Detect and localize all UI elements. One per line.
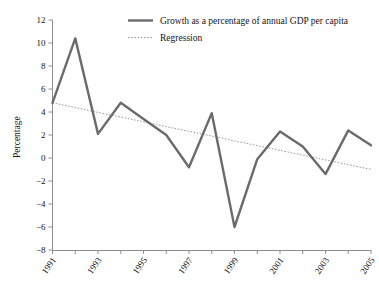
y-tick-label: 2 (41, 130, 46, 140)
x-tick-label: 1991 (40, 255, 59, 275)
y-tick-label: −4 (36, 199, 46, 209)
x-axis-labels: 19911993199519971999200120032005 (40, 255, 377, 276)
legend-label-growth: Growth as a percentage of annual GDP per… (160, 16, 349, 26)
x-tick-label: 2003 (313, 255, 332, 276)
y-axis-ticks: 121086420−2−4−6−8 (36, 15, 53, 255)
line-chart: Percentage 121086420−2−4−6−8 19911993199… (0, 0, 379, 294)
y-tick-label: −2 (36, 176, 46, 186)
y-tick-label: −8 (36, 245, 46, 255)
chart-container: Percentage 121086420−2−4−6−8 19911993199… (0, 0, 379, 294)
legend-label-regression: Regression (160, 33, 202, 43)
y-tick-label: 0 (41, 153, 46, 163)
y-axis-title: Percentage (12, 116, 22, 158)
y-tick-label: −6 (36, 222, 46, 232)
x-tick-label: 2005 (358, 255, 377, 276)
y-tick-label: 4 (41, 107, 46, 117)
y-tick-label: 8 (41, 61, 46, 71)
y-tick-label: 6 (41, 84, 46, 94)
x-tick-label: 1993 (85, 255, 104, 276)
x-tick-label: 1995 (131, 255, 150, 276)
x-tick-label: 1997 (176, 255, 195, 276)
y-tick-label: 10 (37, 38, 47, 48)
chart-legend: Growth as a percentage of annual GDP per… (128, 16, 349, 43)
x-tick-label: 2001 (267, 255, 286, 275)
growth-series-line (53, 38, 372, 227)
x-tick-label: 1999 (222, 255, 241, 276)
y-tick-label: 12 (37, 15, 46, 25)
